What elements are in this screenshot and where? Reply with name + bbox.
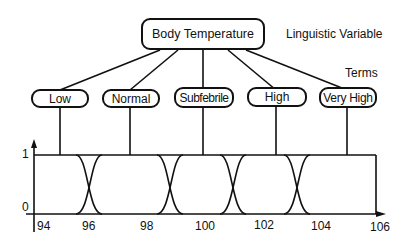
x-tick-100: 100	[195, 219, 215, 233]
terms-label: Terms	[345, 66, 378, 80]
y-tick-1: 1	[22, 147, 29, 161]
linguistic-variable-label: Linguistic Variable	[286, 27, 383, 41]
term-node-low: Low	[31, 89, 89, 108]
term-node-high: High	[247, 87, 307, 107]
term-node-normal: Normal	[102, 89, 160, 108]
x-axis-arrow-icon	[376, 211, 386, 217]
y-tick-0: 0	[22, 200, 29, 214]
root-node-body-temperature: Body Temperature	[141, 18, 265, 50]
term-node-subfebrile: Subfebrile	[174, 87, 234, 108]
x-tick-102: 102	[254, 218, 274, 232]
x-tick-94: 94	[37, 219, 50, 233]
x-tick-106: 106	[370, 220, 390, 234]
x-tick-96: 96	[82, 219, 95, 233]
x-tick-104: 104	[311, 219, 331, 233]
term-node-very-high: Very High	[319, 87, 377, 108]
x-tick-98: 98	[140, 219, 153, 233]
y-axis-arrow-icon	[31, 139, 37, 148]
